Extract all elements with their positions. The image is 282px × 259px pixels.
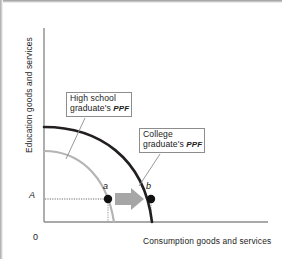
x-axis-label: Consumption goods and services	[143, 236, 271, 246]
high-school-callout: High school graduate's PPF	[66, 92, 132, 117]
origin-label: 0	[33, 232, 38, 242]
college-callout: College graduate's PPF	[139, 128, 205, 153]
shift-arrow	[115, 188, 144, 210]
high-school-callout-line2: graduate's PPF	[70, 104, 128, 114]
college-callout-ppf: PPF	[186, 140, 202, 149]
college-callout-line2: graduate's PPF	[143, 140, 201, 150]
point-b-label: b	[146, 181, 151, 191]
point-a-marker	[104, 195, 112, 203]
y-axis-label: Education goods and services	[24, 37, 34, 153]
y-axis-tick-label-a: A	[29, 190, 35, 200]
point-b-marker	[147, 195, 155, 203]
high-school-callout-line2-text: graduate's	[70, 103, 113, 113]
college-callout-line2-text: graduate's	[143, 139, 186, 149]
high-school-callout-ppf: PPF	[113, 104, 129, 113]
ppf-figure: High school graduate's PPF College gradu…	[0, 0, 282, 259]
high-school-callout-leader-line	[66, 118, 85, 159]
point-a-label: a	[103, 181, 108, 191]
college-ppf-curve	[44, 127, 152, 222]
